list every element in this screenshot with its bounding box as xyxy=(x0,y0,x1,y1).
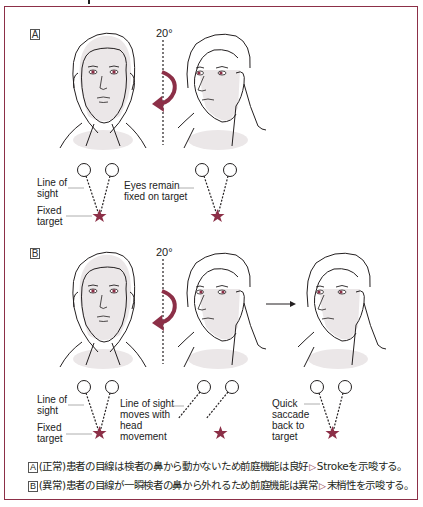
caption-a-text: (正常)患者の目線は検者の鼻から動かないため前庭機能は良好 xyxy=(39,460,309,472)
leader-line xyxy=(68,404,84,406)
face-corrected-icon xyxy=(298,247,398,367)
cropped-heading-glyph xyxy=(88,0,90,4)
annotation-moves-with-head: Line of sight moves with head movement xyxy=(120,398,174,442)
panel-a-label: A xyxy=(30,29,40,40)
caption-a: A(正常)患者の目線は検者の鼻から動かないため前庭機能は良好▷Strokeを示唆… xyxy=(28,458,407,473)
target-star-icon xyxy=(211,209,225,222)
target-star-icon xyxy=(326,426,340,439)
panel-b-angle: 20° xyxy=(156,246,173,258)
right-arrow-icon xyxy=(266,300,296,308)
triangle-arrow-icon: ▷ xyxy=(319,481,326,491)
eye-circle-icon xyxy=(106,164,119,177)
target-star-icon xyxy=(93,209,107,222)
target-star-icon xyxy=(93,426,107,439)
caption-b-tag: B xyxy=(28,481,38,492)
annotation-line-of-sight-a: Line of sight xyxy=(37,177,67,199)
face-front-icon xyxy=(58,28,158,148)
face-turned-icon xyxy=(178,247,278,367)
caption-a-conclusion: Strokeを示唆する。 xyxy=(317,460,407,472)
face-front-icon xyxy=(58,247,158,367)
eye-circle-icon xyxy=(226,381,239,394)
caption-a-tag: A xyxy=(28,462,38,473)
target-star-icon xyxy=(214,426,228,439)
eye-circle-icon xyxy=(106,381,119,394)
annotation-fixed-target-b: Fixed target xyxy=(37,422,63,444)
line-of-sight-diagram-b3 xyxy=(308,377,368,447)
annotation-fixed-target-a: Fixed target xyxy=(37,205,63,227)
caption-b: B(異常)患者の目線が一瞬検者の鼻から外れるため前庭機能は異常▷末梢性を示唆する… xyxy=(28,477,414,492)
triangle-arrow-icon: ▷ xyxy=(309,462,316,472)
eye-circle-icon xyxy=(78,381,91,394)
eye-circle-icon xyxy=(198,381,211,394)
eye-circle-icon xyxy=(224,164,237,177)
line-of-sight-diagram-a2 xyxy=(193,160,253,230)
eye-circle-icon xyxy=(196,164,209,177)
eye-circle-icon xyxy=(311,381,324,394)
leader-line xyxy=(68,187,84,189)
line-of-sight-diagram-b2 xyxy=(176,377,246,447)
annotation-line-of-sight-b: Line of sight xyxy=(37,394,67,416)
leader-line xyxy=(178,187,194,189)
leader-line xyxy=(66,433,92,435)
caption-b-conclusion: 末梢性を示唆する。 xyxy=(327,479,414,491)
eye-circle-icon xyxy=(339,381,352,394)
leader-line xyxy=(66,215,92,217)
eye-circle-icon xyxy=(78,164,91,177)
panel-a-angle: 20° xyxy=(156,27,173,39)
caption-b-text: (異常)患者の目線が一瞬検者の鼻から外れるため前庭機能は異常 xyxy=(39,479,318,491)
face-turned-icon xyxy=(178,28,278,148)
annotation-eyes-remain: Eyes remain fixed on target xyxy=(124,180,187,202)
rotate-arrow-icon xyxy=(150,70,180,115)
leader-line xyxy=(170,405,184,407)
panel-b-label: B xyxy=(30,248,40,259)
rotate-arrow-icon xyxy=(150,289,180,334)
